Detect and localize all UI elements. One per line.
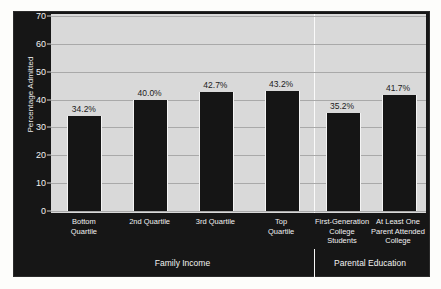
gridline — [51, 127, 426, 128]
y-axis-tick-label: 10 — [36, 178, 46, 188]
x-axis-tick-label: 2nd Quartile — [117, 217, 183, 227]
y-axis: 010203040506070 — [14, 12, 51, 278]
bar — [133, 100, 168, 211]
bar — [67, 116, 102, 211]
group-axis-label: Parental Education — [334, 258, 406, 268]
x-axis: BottomQuartile2nd Quartile3rd QuartileTo… — [51, 215, 426, 251]
y-axis-tick-label: 60 — [36, 39, 46, 49]
x-axis-tick-label: At Least OneParent AttendedCollege — [370, 217, 426, 246]
bar-value-label: 34.2% — [72, 104, 96, 114]
bar — [199, 92, 234, 211]
y-axis-tick-label: 40 — [36, 95, 46, 105]
bar-value-label: 40.0% — [138, 88, 162, 98]
bar-value-label: 43.2% — [269, 79, 293, 89]
bar-value-label: 35.2% — [330, 101, 354, 111]
x-axis-tick-label: TopQuartile — [248, 217, 314, 236]
gridline — [51, 16, 426, 17]
y-axis-tick-label: 20 — [36, 150, 46, 160]
bar-value-label: 42.7% — [203, 80, 227, 90]
y-axis-tick-label: 0 — [41, 206, 46, 216]
plot-area: 34.2%40.0%42.7%43.2%35.2%41.7% — [51, 14, 426, 213]
gridline — [51, 155, 426, 156]
gridline — [51, 44, 426, 45]
bar-chart: Percentage Admitted 010203040506070 34.2… — [13, 11, 430, 277]
gridline — [51, 100, 426, 101]
gridline — [51, 211, 426, 212]
group-axis: Family IncomeParental Education — [51, 249, 426, 275]
bar-value-label: 41.7% — [386, 83, 410, 93]
x-axis-tick-label: BottomQuartile — [51, 217, 117, 236]
gridline — [51, 183, 426, 184]
y-axis-tick-label: 50 — [36, 67, 46, 77]
x-axis-tick-label: First-GenerationCollege Students — [314, 217, 370, 246]
y-axis-tick-label: 70 — [36, 11, 46, 21]
y-axis-tick-label: 30 — [36, 122, 46, 132]
bar — [326, 113, 361, 211]
group-axis-label: Family Income — [155, 258, 210, 268]
gridline — [51, 72, 426, 73]
figure: Percentage Admitted 010203040506070 34.2… — [0, 0, 441, 289]
bar — [382, 95, 417, 211]
bar — [265, 91, 300, 211]
group-axis-divider — [314, 249, 315, 277]
x-axis-tick-label: 3rd Quartile — [183, 217, 249, 227]
